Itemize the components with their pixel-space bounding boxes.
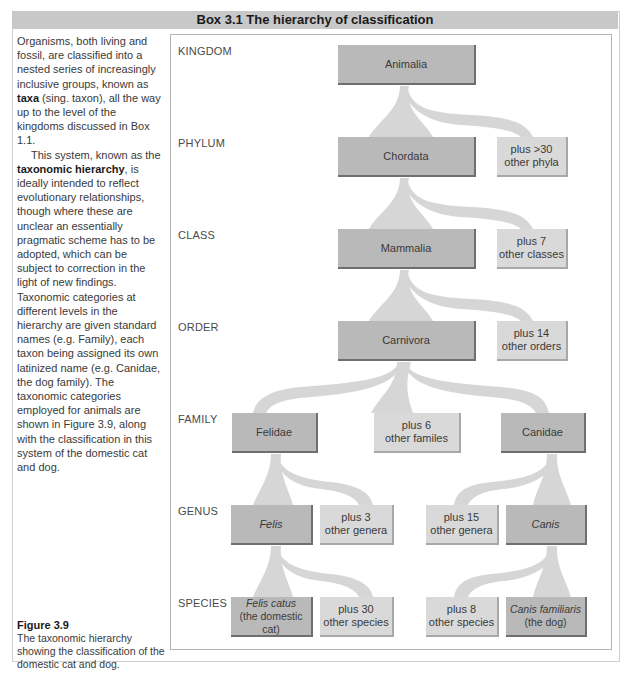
canis-familiaris-label: Canis familiaris (the dog): [510, 603, 581, 629]
rank-phylum: PHYLUM: [178, 137, 225, 149]
rank-class: CLASS: [178, 229, 215, 241]
figure-caption: Figure 3.9 The taxonomic hierarchy showi…: [17, 619, 167, 671]
node-other-genera-cat: plus 3 other genera: [320, 505, 394, 545]
node-other-families: plus 6 other familes: [374, 413, 461, 453]
term-taxa: taxa: [17, 92, 39, 104]
node-other-genera-dog: plus 15 other genera: [426, 505, 499, 545]
node-other-classes: plus 7 other classes: [497, 229, 568, 269]
node-felis-catus: Felis catus (the domestic cat): [231, 597, 313, 637]
figure-label: Figure 3.9: [17, 619, 167, 632]
node-other-orders: plus 14 other orders: [497, 321, 568, 361]
rank-family: FAMILY: [178, 413, 218, 425]
node-canis: Canis: [506, 505, 587, 545]
node-other-species-dog: plus 8 other species: [426, 597, 499, 637]
node-felidae: Felidae: [232, 413, 318, 453]
paragraph-2: This system, known as the taxonomic hier…: [17, 148, 163, 475]
paragraph-1: Organisms, both living and fossil, are c…: [17, 34, 163, 148]
node-canidae: Canidae: [501, 413, 586, 453]
felis-catus-label: Felis catus (the domestic cat): [231, 597, 311, 636]
rank-kingdom: KINGDOM: [178, 45, 232, 57]
term-taxonomic-hierarchy: taxonomic hierarchy: [17, 163, 125, 175]
node-animalia: Animalia: [338, 45, 476, 85]
box-title: Box 3.1 The hierarchy of classification: [12, 11, 618, 29]
node-chordata: Chordata: [338, 137, 476, 177]
node-canis-familiaris: Canis familiaris (the dog): [506, 597, 587, 637]
node-carnivora: Carnivora: [338, 321, 476, 361]
node-mammalia: Mammalia: [338, 229, 476, 269]
node-felis: Felis: [231, 505, 313, 545]
rank-species: SPECIES: [178, 597, 227, 609]
taxonomy-diagram: KINGDOM PHYLUM CLASS ORDER FAMILY GENUS …: [170, 34, 612, 650]
node-other-phyla: plus >30 other phyla: [497, 137, 568, 177]
rank-genus: GENUS: [178, 505, 218, 517]
rank-order: ORDER: [178, 321, 219, 333]
sidebar-text: Organisms, both living and fossil, are c…: [17, 34, 163, 474]
figure-caption-text: The taxonomic hierarchy showing the clas…: [17, 632, 167, 671]
node-other-species-cat: plus 30 other species: [320, 597, 394, 637]
